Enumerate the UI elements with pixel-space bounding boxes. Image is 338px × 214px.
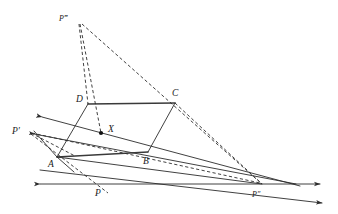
- label-point-p-prime: P′: [11, 126, 21, 136]
- diagram-canvas: A B C D X P P′ P″ P‴: [0, 0, 338, 214]
- label-point-x: X: [107, 124, 115, 134]
- point-x-dot: [99, 131, 103, 135]
- dashed-line-c-to-vanishing-point: [175, 103, 262, 184]
- label-point-p-double-prime: P″: [251, 190, 261, 199]
- ray-descending-through-vanishing-point: [40, 170, 322, 203]
- label-point-p-triple-prime: P‴: [58, 14, 68, 23]
- label-vertex-b: B: [143, 156, 149, 166]
- ray-p-prime-to-a: [34, 131, 57, 157]
- label-vertex-d: D: [75, 94, 83, 104]
- label-vertex-a: A: [47, 159, 54, 169]
- label-vertex-c: C: [172, 88, 179, 98]
- ray-through-ab-to-vanishing-point: [42, 117, 300, 186]
- geometry-figure: A B C D X P P′ P″ P‴: [0, 0, 338, 214]
- parallelogram-abcd: [57, 103, 175, 157]
- label-point-p: P: [94, 188, 101, 198]
